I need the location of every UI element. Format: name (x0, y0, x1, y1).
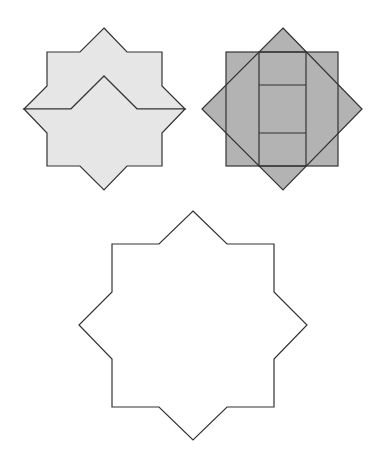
star-outline-figure (79, 211, 307, 440)
diagram-canvas (0, 0, 382, 475)
split-star-figure (24, 28, 185, 190)
square-diamond-figure (202, 28, 362, 190)
